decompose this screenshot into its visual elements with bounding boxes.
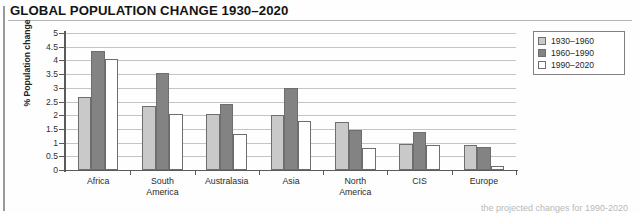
x-axis-tick bbox=[323, 170, 324, 175]
x-axis-category-label: Australasia bbox=[195, 176, 259, 187]
bar bbox=[105, 59, 119, 170]
legend-item: 1930–1960 bbox=[538, 35, 620, 47]
y-axis-tick bbox=[59, 143, 65, 144]
x-axis-category-label-line: Europe bbox=[452, 176, 516, 187]
x-axis-category-label: CIS bbox=[387, 176, 451, 187]
y-axis-labels: 00.511.522.533.544.55 bbox=[8, 0, 58, 213]
page-left-rule bbox=[3, 6, 5, 211]
bar bbox=[362, 148, 376, 170]
x-axis-tick bbox=[516, 170, 517, 175]
y-axis-tick bbox=[59, 60, 65, 61]
y-axis-tick bbox=[59, 74, 65, 75]
x-axis-category-label-line: CIS bbox=[387, 176, 451, 187]
y-axis-tick bbox=[59, 129, 65, 130]
bar bbox=[284, 88, 298, 170]
x-axis-category-label: NorthAmerica bbox=[323, 176, 387, 197]
x-axis-category-label-line: Asia bbox=[259, 176, 323, 187]
x-axis-category-label: Africa bbox=[66, 176, 130, 187]
bar bbox=[464, 145, 478, 170]
x-axis-category-label-line: Africa bbox=[66, 176, 130, 187]
y-axis-tick-label: 0 bbox=[12, 165, 58, 175]
y-axis-tick-label: 1 bbox=[12, 138, 58, 148]
y-axis-tick-label: 2 bbox=[12, 110, 58, 120]
plot-area bbox=[66, 33, 516, 170]
bar bbox=[206, 114, 220, 170]
x-axis-category-label: SouthAmerica bbox=[130, 176, 194, 197]
gridline bbox=[66, 74, 516, 75]
x-axis-category-label-line: South bbox=[130, 176, 194, 187]
bar bbox=[413, 132, 427, 170]
legend-swatch-icon bbox=[538, 37, 546, 45]
gridline bbox=[66, 60, 516, 61]
x-axis-tick bbox=[195, 170, 196, 175]
y-axis-tick bbox=[59, 156, 65, 157]
bar bbox=[298, 121, 312, 170]
bar bbox=[335, 122, 349, 170]
x-axis-category-label-line: America bbox=[323, 187, 387, 198]
chart-page: GLOBAL POPULATION CHANGE 1930–2020 00.51… bbox=[0, 0, 640, 213]
x-axis-tick bbox=[452, 170, 453, 175]
title-divider bbox=[8, 20, 632, 21]
bar bbox=[156, 73, 170, 170]
legend-item: 1960–1990 bbox=[538, 47, 620, 59]
x-axis-tick bbox=[387, 170, 388, 175]
y-axis-tick-label: 4 bbox=[12, 55, 58, 65]
y-axis-tick bbox=[59, 115, 65, 116]
title-block: GLOBAL POPULATION CHANGE 1930–2020 bbox=[10, 2, 630, 22]
y-axis-tick-label: 5 bbox=[12, 28, 58, 38]
y-axis-tick-label: 3 bbox=[12, 83, 58, 93]
y-axis-tick-label: 2.5 bbox=[12, 97, 58, 107]
x-axis-tick bbox=[130, 170, 131, 175]
gridline bbox=[66, 47, 516, 48]
y-axis-tick-label: 0.5 bbox=[12, 151, 58, 161]
x-axis-tick bbox=[259, 170, 260, 175]
caption-text: the projected changes for 1990-2020 bbox=[12, 203, 628, 213]
bar bbox=[491, 166, 505, 170]
y-axis-tick bbox=[59, 47, 65, 48]
bar bbox=[477, 147, 491, 170]
bar bbox=[142, 106, 156, 170]
y-axis-tick bbox=[59, 102, 65, 103]
x-axis-category-label-line: Australasia bbox=[195, 176, 259, 187]
bar bbox=[271, 115, 285, 170]
y-axis-tick bbox=[59, 170, 65, 171]
x-axis-category-label: Europe bbox=[452, 176, 516, 187]
y-axis-tick-label: 1.5 bbox=[12, 124, 58, 134]
bar bbox=[91, 51, 105, 170]
x-axis-category-label: Asia bbox=[259, 176, 323, 187]
caption-block: the projected changes for 1990-2020 bbox=[12, 203, 628, 213]
legend-label: 1990–2020 bbox=[551, 60, 594, 70]
bar bbox=[220, 104, 234, 170]
legend-swatch-icon bbox=[538, 61, 546, 69]
bar bbox=[399, 144, 413, 170]
bar bbox=[169, 114, 183, 170]
x-axis-category-label-line: America bbox=[130, 187, 194, 198]
y-axis-title: % Population change bbox=[22, 7, 32, 119]
legend-label: 1960–1990 bbox=[551, 48, 594, 58]
y-axis-tick bbox=[59, 88, 65, 89]
bar bbox=[233, 134, 247, 170]
y-axis-tick bbox=[59, 33, 65, 34]
chart-legend: 1930–19601960–19901990–2020 bbox=[533, 31, 625, 75]
y-axis-tick-label: 3.5 bbox=[12, 69, 58, 79]
bar bbox=[349, 130, 363, 170]
gridline bbox=[66, 33, 516, 34]
legend-swatch-icon bbox=[538, 49, 546, 57]
page-title: GLOBAL POPULATION CHANGE 1930–2020 bbox=[10, 2, 630, 19]
x-axis-category-label-line: North bbox=[323, 176, 387, 187]
legend-item: 1990–2020 bbox=[538, 59, 620, 71]
y-axis-tick-label: 4.5 bbox=[12, 42, 58, 52]
legend-label: 1930–1960 bbox=[551, 36, 594, 46]
bar bbox=[426, 145, 440, 170]
bar bbox=[78, 97, 92, 170]
